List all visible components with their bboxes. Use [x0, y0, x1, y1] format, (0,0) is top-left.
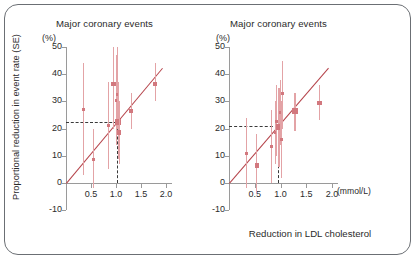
y-tick	[225, 129, 229, 130]
y-tick-label: 40	[32, 68, 62, 78]
y-tick-label: -10	[32, 204, 62, 214]
y-tick-label: 20	[195, 123, 225, 133]
data-point[interactable]	[245, 152, 248, 155]
x-tick	[281, 184, 282, 188]
data-point[interactable]	[317, 101, 321, 105]
data-point[interactable]	[117, 130, 121, 134]
y-tick-label: 50	[195, 41, 225, 51]
x-tick-label: 1.0	[267, 189, 295, 199]
x-tick-label: 1.5	[292, 189, 320, 199]
x-tick	[91, 184, 92, 188]
y-tick-label: 30	[32, 95, 62, 105]
x-axis	[66, 183, 172, 184]
x-tick-label: 0.5	[77, 189, 105, 199]
data-point[interactable]	[292, 108, 298, 114]
y-tick	[62, 74, 66, 75]
error-bar	[113, 47, 114, 129]
y-tick-label: 30	[195, 95, 225, 105]
y-axis	[229, 47, 230, 210]
y-tick	[225, 47, 229, 48]
x-tick	[306, 184, 307, 188]
y-tick	[225, 101, 229, 102]
y-tick	[62, 129, 66, 130]
data-point[interactable]	[280, 138, 283, 141]
y-tick-label: 40	[195, 68, 225, 78]
y-tick-label: 10	[32, 150, 62, 160]
y-tick-label: -10	[195, 204, 225, 214]
data-point[interactable]	[153, 82, 157, 86]
y-tick-label: 0	[32, 177, 62, 187]
x-tick	[166, 184, 167, 188]
data-point[interactable]	[281, 92, 284, 95]
y-tick-label: 20	[32, 123, 62, 133]
x-tick	[332, 184, 333, 188]
x-tick-label: 2.0	[318, 189, 346, 199]
x-tick-label: 1.5	[127, 189, 155, 199]
data-point[interactable]	[82, 108, 85, 111]
y-tick	[225, 156, 229, 157]
y-tick-label: 50	[32, 41, 62, 51]
x-tick-label: 1.0	[102, 189, 130, 199]
y-tick-label: 10	[195, 150, 225, 160]
error-bar	[83, 63, 84, 175]
panel-left: Major coronary events (%) 50403020100-10…	[0, 0, 210, 263]
x-tick	[141, 184, 142, 188]
data-point[interactable]	[107, 124, 110, 127]
x-tick	[116, 184, 117, 188]
y-tick	[62, 210, 66, 211]
y-axis	[66, 47, 67, 210]
panel-left-plot: 50403020100-100.51.01.52.0	[0, 0, 210, 263]
data-point[interactable]	[129, 109, 133, 113]
y-tick	[225, 74, 229, 75]
y-tick-label: 0	[195, 177, 225, 187]
reference-line-horizontal	[66, 122, 117, 123]
y-tick	[62, 47, 66, 48]
y-tick	[62, 156, 66, 157]
data-point[interactable]	[92, 158, 95, 161]
panel-right-plot: 50403020100-100.51.01.52.0	[210, 0, 419, 263]
panel-right: Major coronary events (%) (mmol/L) 50403…	[210, 0, 419, 263]
y-tick	[62, 101, 66, 102]
y-tick	[225, 210, 229, 211]
x-tick-label: 2.0	[152, 189, 180, 199]
data-point[interactable]	[270, 145, 273, 148]
x-tick-label: 0.5	[241, 189, 269, 199]
data-point[interactable]	[255, 163, 259, 167]
